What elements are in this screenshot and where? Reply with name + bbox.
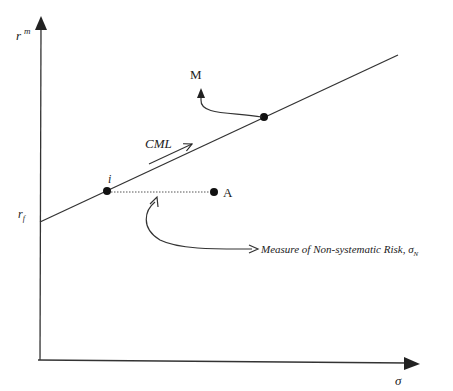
cml-label: CML [145,136,172,151]
point-a [210,188,218,196]
point-i [103,187,111,195]
point-a-label: A [223,185,233,200]
x-axis-label: σ [395,373,402,388]
m-pointer-arrowhead-icon [197,88,205,98]
y-axis-arrow-icon [35,16,47,30]
x-axis-arrow-icon [404,357,420,370]
m-pointer-arrow [201,96,262,117]
non-systematic-risk-annotation: Measure of Non-systematic Risk, σN [260,243,419,258]
annotation-pointer-curve [146,202,252,249]
y-axis [35,16,47,360]
point-m-label: M [190,67,202,82]
x-axis [38,357,420,370]
point-i-label: i [108,172,111,186]
capital-market-line [40,55,398,222]
cml-diagram: rm σ rf CML i A M Measure of Non-systema… [0,0,453,391]
y-axis-label: rm [16,26,31,43]
risk-free-rate-label: rf [18,207,27,223]
